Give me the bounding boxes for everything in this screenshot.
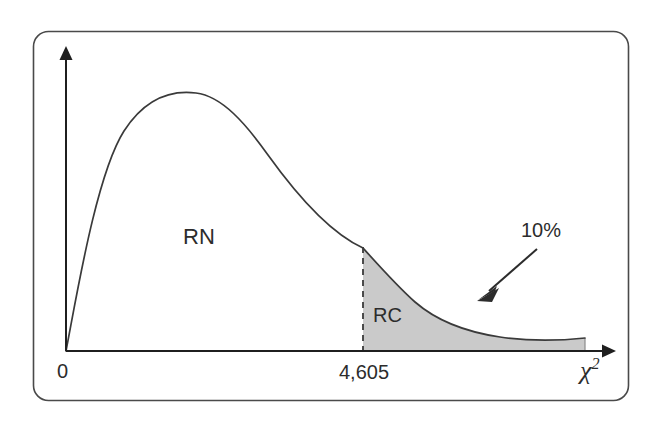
x-axis-tick-origin: 0 [57, 361, 68, 381]
x-axis-title-exponent: 2 [591, 355, 599, 372]
tail-percent-label: 10% [521, 220, 561, 240]
x-axis-tick-critical-value: 4,605 [339, 362, 389, 382]
region-label-rc: RC [373, 305, 402, 325]
x-axis-title-base: χ [580, 356, 591, 385]
x-axis-title: χ2 [580, 356, 600, 384]
chart-canvas [0, 0, 666, 423]
chi-square-figure: RN RC 10% 0 4,605 χ2 [0, 0, 666, 423]
region-label-rn: RN [183, 226, 215, 248]
